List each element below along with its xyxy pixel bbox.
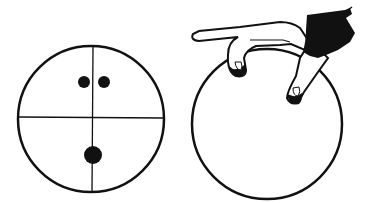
bowling-grip-illustration: [0, 0, 372, 203]
thumb-hole: [84, 146, 102, 164]
finger-hole-left: [78, 76, 90, 88]
horizontal-axis-line: [19, 117, 164, 118]
ball-outline-left: [18, 46, 164, 192]
sleeve: [303, 8, 355, 58]
ball-layout-diagram: [18, 46, 164, 192]
finger-hole-right: [98, 76, 110, 88]
hand-gripping-ball: [192, 7, 355, 199]
vertical-axis-line: [92, 47, 93, 192]
